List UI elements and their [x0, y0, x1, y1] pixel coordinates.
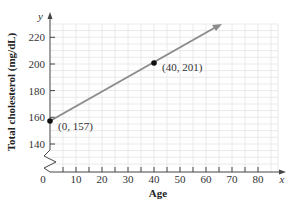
trend-line	[50, 27, 216, 121]
x-tick-label: 20	[97, 173, 109, 185]
data-point-0-157	[47, 118, 53, 124]
x-tick-label: 0	[40, 173, 46, 185]
x-axis-variable: x	[279, 173, 285, 185]
x-tick-label: 30	[123, 173, 135, 185]
point-label-a: (0, 157)	[58, 120, 93, 133]
x-tick-label: 50	[175, 173, 187, 185]
x-tick-label: 70	[227, 173, 239, 185]
y-axis	[44, 16, 56, 172]
y-tick-label: 140	[29, 138, 46, 150]
x-axis-title: Age	[149, 187, 167, 199]
cholesterol-chart: 220 200 180 160 140 0 10 20 30 40 50 60 …	[0, 0, 298, 205]
x-tick-label: 40	[149, 173, 161, 185]
y-tick-label: 180	[29, 85, 46, 97]
x-tick-label: 60	[201, 173, 213, 185]
y-axis-variable: y	[37, 10, 43, 22]
x-tick-label: 10	[71, 173, 83, 185]
point-label-b: (40, 201)	[162, 61, 203, 74]
y-tick-label: 200	[29, 58, 46, 70]
y-tick-label: 160	[29, 111, 46, 123]
y-axis-title: Total cholesterol (mg/dL)	[5, 32, 18, 151]
data-point-40-201	[151, 60, 157, 66]
y-axis-arrow-icon	[48, 12, 53, 19]
x-axis	[50, 167, 280, 172]
y-tick-label: 220	[29, 31, 46, 43]
x-tick-label: 80	[253, 173, 265, 185]
grid	[50, 24, 278, 172]
